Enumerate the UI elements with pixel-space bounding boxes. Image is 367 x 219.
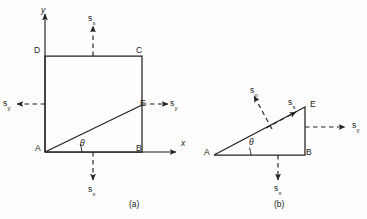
stress-subscript: x bbox=[93, 20, 96, 26]
vertex-E: E bbox=[140, 99, 146, 108]
stress-sn-normal: sn bbox=[250, 86, 258, 97]
stress-symbol: s bbox=[3, 98, 7, 108]
stress-element-figure bbox=[0, 0, 367, 219]
vertex-B: B bbox=[136, 144, 142, 153]
stress-sy-left: sy bbox=[3, 99, 10, 110]
vertex-A: A bbox=[35, 144, 41, 153]
stress-subscript: s bbox=[293, 104, 296, 110]
stress-subscript: n bbox=[255, 92, 258, 98]
stress-subscript: x bbox=[93, 191, 96, 197]
vertex-C: C bbox=[136, 46, 142, 55]
y-axis-label: y bbox=[41, 6, 45, 15]
stress-ss-shear: ss bbox=[288, 98, 295, 109]
stress-sy-right: sy bbox=[352, 121, 359, 132]
stress-sx-bottom: sx bbox=[274, 184, 281, 195]
caption-a: (a) bbox=[129, 199, 139, 209]
vertex-D: D bbox=[34, 46, 40, 55]
stress-sy-right: sy bbox=[170, 99, 177, 110]
stress-symbol: s bbox=[274, 183, 278, 193]
theta-label: θ bbox=[249, 138, 254, 147]
arrow-sn-normal bbox=[254, 96, 272, 129]
stress-symbol: s bbox=[288, 97, 292, 107]
vertex-E: E bbox=[310, 100, 316, 109]
x-axis-label: x bbox=[181, 139, 185, 148]
stress-subscript: y bbox=[175, 105, 178, 111]
diagonal-ae bbox=[45, 105, 142, 152]
stress-symbol: s bbox=[352, 120, 356, 130]
theta-arc bbox=[250, 148, 252, 156]
caption-b: (b) bbox=[274, 199, 284, 209]
stress-symbol: s bbox=[88, 13, 92, 23]
square-abcd bbox=[45, 56, 142, 152]
theta-label: θ bbox=[80, 139, 85, 148]
stress-symbol: s bbox=[88, 184, 92, 194]
stress-sx-bottom: sx bbox=[88, 185, 95, 196]
vertex-B: B bbox=[306, 148, 312, 157]
stress-symbol: s bbox=[250, 85, 254, 95]
vertex-A: A bbox=[204, 148, 210, 157]
stress-subscript: y bbox=[8, 105, 11, 111]
stress-sx-top: sx bbox=[88, 14, 95, 25]
stress-subscript: x bbox=[279, 190, 282, 196]
triangle-abe bbox=[214, 107, 305, 155]
stress-symbol: s bbox=[170, 98, 174, 108]
stress-subscript: y bbox=[357, 127, 360, 133]
